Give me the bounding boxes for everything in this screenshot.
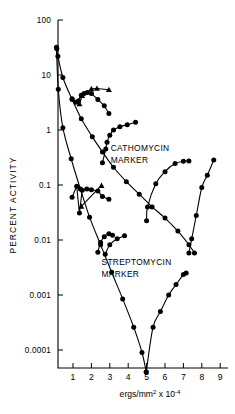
- data-point-circle: [54, 45, 59, 50]
- data-point-circle: [192, 251, 197, 256]
- data-series-layer: [54, 45, 216, 375]
- data-point-circle: [115, 236, 120, 241]
- data-point-circle: [102, 103, 107, 108]
- data-point-triangle: [99, 182, 105, 187]
- data-point-circle: [144, 218, 149, 223]
- data-point-circle: [70, 195, 75, 200]
- y-axis-tick-label: 100: [37, 16, 52, 25]
- y-axis-tick-label: 0.0001: [25, 346, 51, 355]
- data-point-circle: [131, 325, 136, 330]
- x-axis-tick-label: 3: [107, 372, 112, 382]
- data-point-circle: [100, 194, 105, 199]
- data-point-circle: [87, 215, 92, 220]
- data-point-circle: [107, 133, 112, 138]
- data-point-circle: [80, 188, 85, 193]
- data-point-circle: [122, 233, 127, 238]
- data-point-circle: [77, 210, 82, 215]
- series-line: [146, 273, 186, 372]
- data-point-circle: [205, 173, 210, 178]
- data-point-circle: [151, 325, 156, 330]
- right-recovery-curve-1: [144, 159, 191, 224]
- data-point-circle: [186, 251, 191, 256]
- semilog-plot-svg: CATHOMYCINMARKERSTREPTOMYCINMARKER 10010…: [0, 0, 235, 414]
- data-point-circle: [69, 156, 74, 161]
- data-point-circle: [106, 111, 111, 116]
- data-point-circle: [110, 233, 115, 238]
- data-point-circle: [117, 124, 122, 129]
- data-point-circle: [107, 242, 112, 247]
- streptomycin-marker-label-line2: MARKER: [102, 269, 140, 279]
- data-point-circle: [60, 125, 65, 130]
- x-axis-tick-label: 1: [71, 372, 76, 382]
- data-point-circle: [153, 181, 158, 186]
- data-point-circle: [79, 116, 84, 121]
- data-point-circle: [163, 216, 168, 221]
- y-axis-tick-label: 1: [46, 126, 51, 135]
- right-recovery-curve-2: [186, 157, 216, 255]
- data-point-circle: [133, 120, 138, 125]
- data-point-circle: [111, 165, 116, 170]
- data-point-circle: [103, 147, 108, 152]
- series-line: [147, 161, 189, 221]
- data-point-circle: [100, 160, 105, 165]
- x-axis-title: ergs/mm2 x 10-4: [120, 389, 181, 399]
- data-point-circle: [175, 229, 180, 234]
- x-axis-tick-label: 6: [163, 372, 168, 382]
- streptomycin-survival-curve: [54, 45, 149, 375]
- data-point-circle: [70, 96, 75, 101]
- y-axis-tick-label: 0.01: [34, 236, 51, 245]
- data-point-circle: [56, 87, 61, 92]
- data-point-circle: [181, 159, 186, 164]
- data-point-circle: [95, 250, 100, 255]
- x-axis-tick-label: 5: [144, 372, 149, 382]
- data-point-circle: [60, 75, 65, 80]
- chart-figure: CATHOMYCINMARKERSTREPTOMYCINMARKER 10010…: [0, 0, 235, 414]
- data-point-circle: [184, 271, 189, 276]
- data-point-circle: [145, 204, 150, 209]
- data-point-circle: [89, 91, 94, 96]
- data-point-circle: [84, 186, 89, 191]
- data-point-circle: [158, 309, 163, 314]
- data-point-circle: [89, 187, 94, 192]
- data-point-circle: [140, 350, 145, 355]
- data-point-circle: [103, 252, 108, 257]
- y-axis-tick-label: 10: [41, 71, 51, 80]
- axis-lines: [58, 20, 228, 368]
- annotation-layer: CATHOMYCINMARKERSTREPTOMYCINMARKER: [102, 143, 172, 280]
- axes-layer: [58, 20, 228, 368]
- data-point-circle: [137, 192, 142, 197]
- data-point-circle: [174, 282, 179, 287]
- data-point-circle: [173, 161, 178, 166]
- axis-labels-layer: 1001010.10.010.0010.0001123456789ergs/mm…: [8, 16, 223, 399]
- cathomycin-marker-label: CATHOMYCIN: [111, 143, 170, 153]
- data-point-circle: [102, 234, 107, 239]
- y-axis-tick-label: 0.001: [30, 291, 52, 300]
- data-point-circle: [194, 213, 199, 218]
- cathomycin-peak-cluster: [70, 90, 112, 116]
- cathomycin-marker-label-line2: MARKER: [111, 155, 149, 165]
- bottom-v-recovery-curve: [144, 271, 189, 375]
- data-point-circle: [90, 134, 95, 139]
- data-point-circle: [199, 185, 204, 190]
- data-point-circle: [189, 236, 194, 241]
- x-axis-tick-label: 4: [126, 372, 131, 382]
- data-point-circle: [166, 293, 171, 298]
- data-point-circle: [111, 128, 116, 133]
- y-axis-tick-label: 0.1: [39, 181, 51, 190]
- streptomycin-marker-label: STREPTOMYCIN: [102, 257, 172, 267]
- data-point-circle: [105, 140, 110, 145]
- data-point-circle: [74, 184, 79, 189]
- data-point-circle: [124, 179, 129, 184]
- data-point-circle: [163, 169, 168, 174]
- x-axis-tick-label: 7: [181, 372, 186, 382]
- x-axis-tick-label: 2: [89, 372, 94, 382]
- data-point-circle: [150, 204, 155, 209]
- data-point-circle: [211, 157, 216, 162]
- streptomycin-mid-cluster: [70, 184, 112, 216]
- data-point-circle: [98, 240, 103, 245]
- data-point-circle: [120, 296, 125, 301]
- x-axis-tick-label: 9: [218, 372, 223, 382]
- data-point-circle: [95, 97, 100, 102]
- data-point-circle: [186, 159, 191, 164]
- y-axis-title: PERCENT ACTIVITY: [8, 156, 18, 253]
